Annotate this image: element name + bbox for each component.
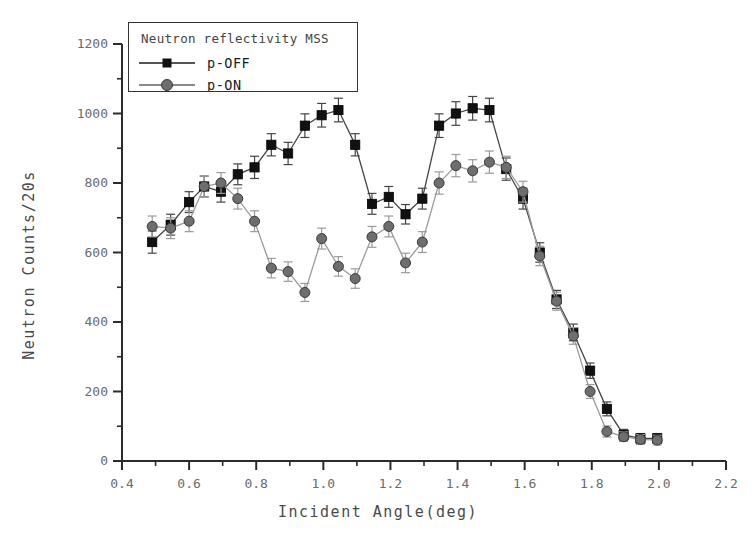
legend-line-p-on <box>139 84 195 85</box>
data-point-square <box>602 404 611 413</box>
data-point-square <box>267 140 276 149</box>
data-point-circle <box>199 181 209 191</box>
data-point-circle <box>384 221 394 231</box>
data-point-circle <box>585 387 595 397</box>
data-point-circle <box>434 178 444 188</box>
x-tick-label: 0.6 <box>159 476 219 491</box>
y-tick-label: 1000 <box>42 106 108 121</box>
data-point-square <box>317 111 326 120</box>
data-point-circle <box>184 216 194 226</box>
data-point-square <box>384 192 393 201</box>
y-tick-label: 600 <box>42 245 108 260</box>
x-tick-label: 1.2 <box>360 476 420 491</box>
y-tick-label: 200 <box>42 384 108 399</box>
plot-canvas <box>0 0 756 552</box>
chart-legend: Neutron reflectivity MSS p-OFF p-ON <box>128 22 358 92</box>
data-point-circle <box>451 161 461 171</box>
data-point-square <box>468 104 477 113</box>
data-point-circle <box>216 178 226 188</box>
data-point-circle <box>468 166 478 176</box>
data-point-circle <box>535 251 545 261</box>
data-point-circle <box>552 296 562 306</box>
data-point-square <box>300 121 309 130</box>
x-tick-label: 2.2 <box>696 476 756 491</box>
data-point-square <box>367 199 376 208</box>
data-point-square <box>401 210 410 219</box>
data-point-square <box>351 140 360 149</box>
data-point-circle <box>350 274 360 284</box>
data-point-square <box>233 170 242 179</box>
x-tick-label: 1.4 <box>428 476 488 491</box>
data-point-square <box>185 198 194 207</box>
data-point-circle <box>250 216 260 226</box>
data-point-circle <box>619 432 629 442</box>
data-point-square <box>586 366 595 375</box>
x-tick-label: 1.6 <box>495 476 555 491</box>
data-point-circle <box>266 263 276 273</box>
data-point-circle <box>283 267 293 277</box>
x-tick-label: 0.4 <box>92 476 152 491</box>
y-tick-label: 1200 <box>42 36 108 51</box>
data-point-circle <box>166 223 176 233</box>
data-point-circle <box>147 221 157 231</box>
square-marker-icon <box>163 58 172 67</box>
data-point-square <box>435 121 444 130</box>
data-point-square <box>334 105 343 114</box>
x-axis-title: Incident Angle(deg) <box>0 503 756 521</box>
legend-entry-p-off: p-OFF <box>139 53 250 73</box>
data-point-circle <box>635 434 645 444</box>
series-line <box>152 108 657 438</box>
data-point-circle <box>417 237 427 247</box>
x-tick-label: 1.8 <box>562 476 622 491</box>
data-point-circle <box>484 157 494 167</box>
data-point-circle <box>652 435 662 445</box>
data-point-circle <box>518 187 528 197</box>
data-point-circle <box>568 331 578 341</box>
legend-line-p-off <box>139 62 195 63</box>
x-tick-label: 2.0 <box>629 476 689 491</box>
data-point-circle <box>401 258 411 268</box>
y-tick-label: 400 <box>42 314 108 329</box>
data-point-circle <box>317 234 327 244</box>
data-point-square <box>451 109 460 118</box>
data-point-square <box>485 105 494 114</box>
data-point-circle <box>233 194 243 204</box>
data-point-square <box>250 163 259 172</box>
legend-label-p-off: p-OFF <box>207 55 250 71</box>
chart-figure: Neutron reflectivity MSS p-OFF p-ON Inci… <box>0 0 756 552</box>
data-point-circle <box>333 261 343 271</box>
series-line <box>152 162 657 440</box>
y-tick-label: 800 <box>42 175 108 190</box>
data-point-square <box>418 194 427 203</box>
data-point-circle <box>501 162 511 172</box>
data-point-circle <box>300 287 310 297</box>
y-tick-label: 0 <box>42 453 108 468</box>
legend-label-p-on: p-ON <box>207 77 242 92</box>
legend-title: Neutron reflectivity MSS <box>141 31 329 46</box>
data-point-circle <box>602 426 612 436</box>
circle-marker-icon <box>161 79 173 91</box>
legend-entry-p-on: p-ON <box>139 75 242 92</box>
x-tick-label: 0.8 <box>226 476 286 491</box>
data-point-square <box>148 237 157 246</box>
data-point-circle <box>367 232 377 242</box>
y-axis-title: Neutron Counts/20s <box>20 150 38 380</box>
x-tick-label: 1.0 <box>293 476 353 491</box>
data-point-square <box>284 149 293 158</box>
